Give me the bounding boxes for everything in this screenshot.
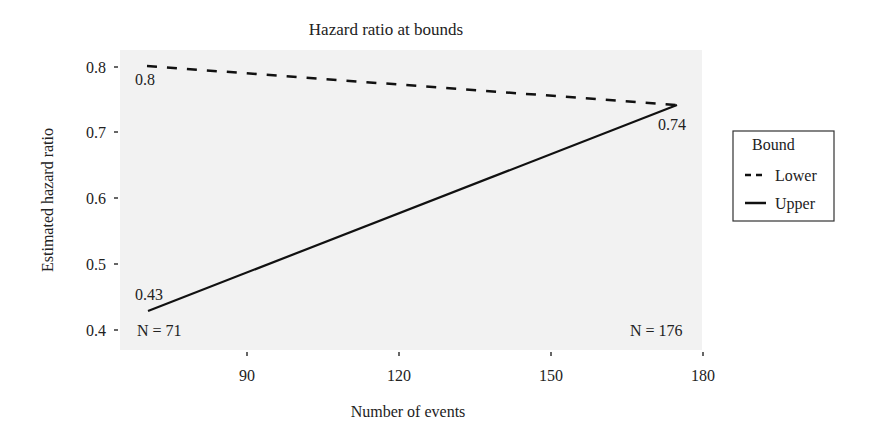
chart-title: Hazard ratio at bounds — [309, 20, 463, 39]
y-tick-label: 0.5 — [86, 256, 106, 273]
x-tick-label: 120 — [387, 367, 411, 384]
annotation-end: 0.74 — [658, 116, 686, 133]
legend: Bound Lower Upper — [733, 131, 834, 221]
y-axis-label: Estimated hazard ratio — [39, 128, 56, 272]
x-axis: 90 120 150 180 — [239, 352, 715, 384]
plot-panel — [120, 50, 702, 350]
y-tick-label: 0.7 — [86, 124, 106, 141]
y-tick-label: 0.6 — [86, 190, 106, 207]
y-axis: 0.8 0.7 0.6 0.5 0.4 — [86, 59, 118, 339]
legend-title: Bound — [752, 136, 795, 153]
legend-label-upper: Upper — [775, 195, 816, 213]
annotation-lower-start: 0.8 — [135, 71, 155, 88]
y-tick-label: 0.4 — [86, 322, 106, 339]
x-tick-label: 180 — [691, 367, 715, 384]
annotation-upper-start: 0.43 — [135, 286, 163, 303]
annotation-n-start: N = 71 — [137, 322, 182, 339]
x-tick-label: 90 — [239, 367, 255, 384]
legend-label-lower: Lower — [775, 167, 817, 184]
x-axis-label: Number of events — [351, 403, 466, 420]
y-tick-label: 0.8 — [86, 59, 106, 76]
hazard-ratio-chart: Hazard ratio at bounds 0.8 0.7 0.6 0.5 0… — [0, 0, 881, 441]
x-tick-label: 150 — [539, 367, 563, 384]
annotation-n-end: N = 176 — [630, 322, 683, 339]
